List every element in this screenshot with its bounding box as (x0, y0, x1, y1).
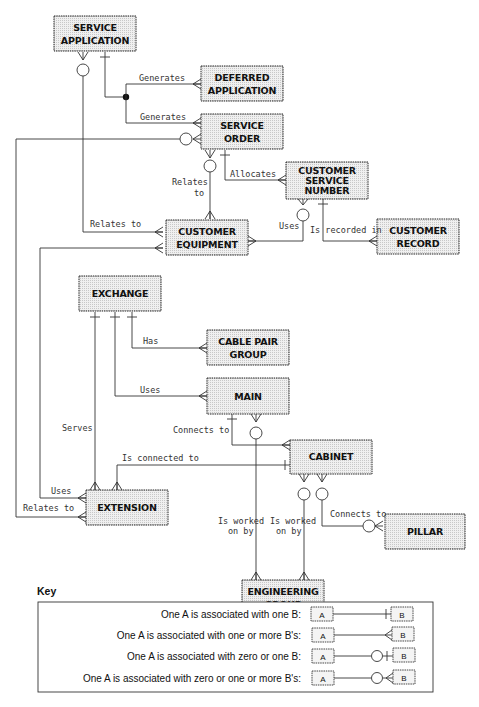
key-entity-a: A (320, 632, 326, 641)
key-entity-b: B (400, 631, 405, 640)
relationship-label: on by (228, 526, 254, 536)
entity-extension[interactable]: EXTENSION (86, 490, 168, 525)
entity-relationship-diagram: SERVICE APPLICATION DEFERRED APPLICATION… (0, 0, 479, 707)
relationship-label: Generates (139, 73, 185, 83)
relationship-label: Generates (140, 112, 186, 122)
relationship-label: Uses (51, 486, 71, 496)
key-entity-b: B (401, 652, 406, 661)
entity-label: ORDER (224, 133, 261, 144)
key-row-text: One A is associated with one B: (161, 609, 301, 620)
relationship-label: Uses (140, 385, 160, 395)
entity-main[interactable]: MAIN (207, 378, 289, 414)
relationship-label: Connects to (330, 509, 386, 519)
relationship-label: Relates to (23, 503, 74, 513)
relationship-label: Is connected to (122, 453, 199, 463)
relationship-label: Allocates (230, 169, 276, 179)
entity-label: CABINET (309, 451, 354, 462)
entity-label: CUSTOMER (389, 225, 448, 236)
entity-service-order[interactable]: SERVICE ORDER (201, 114, 283, 149)
entity-customer-equipment[interactable]: CUSTOMER EQUIPMENT (166, 220, 248, 255)
entity-customer-record[interactable]: CUSTOMER RECORD (377, 219, 459, 254)
key-row-text: One A is associated with one or more B's… (117, 630, 301, 641)
key-entity-b: B (401, 674, 406, 683)
key-entity-a: A (320, 653, 326, 662)
relationship-label: Relates (172, 177, 208, 187)
entity-label: DEFERRED (215, 72, 270, 83)
entity-label: SERVICE (73, 22, 117, 33)
entity-label: APPLICATION (61, 35, 130, 46)
entity-label: EXCHANGE (92, 288, 148, 299)
key-entity-b: B (399, 611, 404, 620)
relationship-label: Serves (62, 423, 93, 433)
key-row-text: One A is associated with zero or one or … (83, 673, 301, 684)
entity-label: GROUP (230, 349, 267, 360)
key-entity-a: A (320, 675, 326, 684)
relationship-label: Is worked (218, 516, 264, 526)
relationship-label: Is worked (270, 516, 316, 526)
relationship-label: on by (276, 526, 302, 536)
relationship-label: Relates to (90, 219, 141, 229)
entity-exchange[interactable]: EXCHANGE (79, 276, 161, 311)
entity-label: EXTENSION (97, 502, 157, 513)
relationship-label: Has (143, 336, 158, 346)
entity-label: PILLAR (407, 526, 444, 537)
entity-label: RECORD (397, 238, 440, 249)
entity-label: CABLE PAIR (218, 336, 279, 347)
entity-label: ENGINEERING (247, 586, 319, 597)
entity-pillar[interactable]: PILLAR (385, 514, 465, 549)
entity-label: NUMBER (305, 185, 351, 196)
entity-cable-pair-group[interactable]: CABLE PAIR GROUP (207, 330, 289, 365)
relationship-label: Uses (279, 221, 299, 231)
key-entity-a: A (319, 611, 325, 620)
legend-key: Key One A is associated with one B: A B … (37, 585, 433, 692)
key-title: Key (37, 585, 56, 597)
entity-cabinet[interactable]: CABINET (290, 440, 372, 474)
connector-lines (16, 52, 383, 580)
relationship-label: Connects to (173, 425, 229, 435)
entity-label: EQUIPMENT (176, 239, 238, 250)
entity-deferred-application[interactable]: DEFERRED APPLICATION (201, 66, 283, 101)
entity-label: CUSTOMER (178, 226, 237, 237)
key-row-text: One A is associated with zero or one B: (127, 651, 301, 662)
relationship-label: Is recorded in (310, 225, 382, 235)
entity-service-application[interactable]: SERVICE APPLICATION (54, 16, 136, 51)
relationship-label: to (194, 188, 204, 198)
entity-label: APPLICATION (208, 85, 277, 96)
entity-customer-service-number[interactable]: CUSTOMER SERVICE NUMBER (286, 162, 368, 199)
entity-label: MAIN (234, 391, 262, 402)
entity-label: SERVICE (220, 120, 264, 131)
